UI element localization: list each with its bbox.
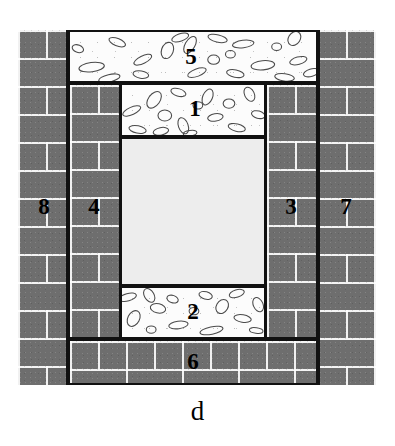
zone-3-right-inner-column xyxy=(265,83,318,339)
figure-container: 5 1 8 4 3 7 2 6 d xyxy=(0,0,395,446)
zone-7-right-outer-column xyxy=(318,30,376,385)
zone-8-left-outer-column xyxy=(18,30,68,385)
zone-4-left-inner-column xyxy=(68,83,121,339)
aggregate-particles xyxy=(122,288,264,337)
masonry-speckle-texture xyxy=(70,341,316,383)
zone-6-bottom-base-course xyxy=(68,339,318,385)
masonry-speckle-texture xyxy=(267,85,316,337)
central-void-opening xyxy=(120,137,266,286)
aggregate-particles xyxy=(122,85,264,135)
aggregate-particles xyxy=(70,32,316,81)
figure-caption: d xyxy=(0,398,395,425)
masonry-speckle-texture xyxy=(18,30,68,385)
divider-outer-right-column xyxy=(317,30,320,385)
zone-1-upper-inner-beam xyxy=(120,83,266,137)
divider-outer-left-column xyxy=(66,30,69,385)
zone-5-top-concrete-beam xyxy=(68,30,318,83)
zone-2-lower-inner-beam xyxy=(120,286,266,339)
masonry-speckle-texture xyxy=(318,30,376,385)
masonry-speckle-texture xyxy=(70,85,119,337)
